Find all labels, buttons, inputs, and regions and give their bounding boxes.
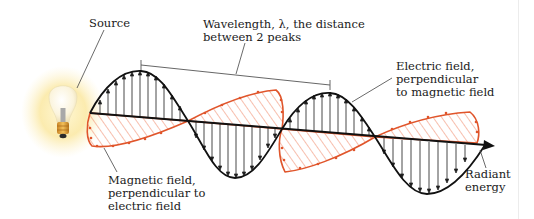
magnetic-leader — [104, 148, 117, 172]
magnetic-field-label: Magnetic field, perpendicular to electri… — [108, 174, 205, 213]
wavelength-bracket — [141, 60, 330, 90]
electric-field-label: Electric field, perpendicular to magneti… — [396, 60, 494, 99]
source-label: Source — [89, 17, 130, 30]
wavelength-leader — [236, 43, 245, 74]
electric-leader — [352, 78, 392, 102]
wavelength-label: Wavelength, λ, the distance between 2 pe… — [203, 18, 365, 44]
radiant-leader — [480, 150, 486, 168]
em-wave-diagram: Source Wavelength, λ, the distance betwe… — [0, 0, 534, 219]
radiant-energy-label: Radiant energy — [465, 168, 511, 194]
